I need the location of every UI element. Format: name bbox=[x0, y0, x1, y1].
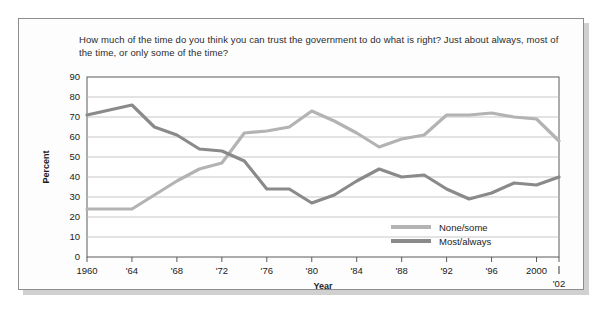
x-tick-label: '80 bbox=[306, 265, 318, 276]
y-tick-label: 80 bbox=[69, 91, 80, 102]
x-tick-label: '88 bbox=[395, 265, 407, 276]
x-tick-label: '84 bbox=[351, 265, 363, 276]
plot-frame bbox=[87, 77, 559, 257]
x-tick-label: '64 bbox=[126, 265, 138, 276]
x-tick-label: '96 bbox=[485, 265, 497, 276]
x-tick-label: 2000 bbox=[526, 265, 547, 276]
y-tick-label: 40 bbox=[69, 171, 80, 182]
legend-label: Most/always bbox=[439, 236, 492, 247]
figure-container: How much of the time do you think you ca… bbox=[0, 0, 611, 322]
x-tick-label-end: '02 bbox=[553, 278, 565, 289]
y-axis-title: Percent bbox=[41, 150, 51, 183]
y-tick-label: 10 bbox=[69, 231, 80, 242]
y-axis-ticks: 0102030405060708090 bbox=[69, 71, 80, 262]
y-tick-label: 30 bbox=[69, 191, 80, 202]
x-tick-label: '76 bbox=[261, 265, 273, 276]
x-tick-label: '68 bbox=[171, 265, 183, 276]
legend-label: None/some bbox=[439, 222, 488, 233]
chart-card: How much of the time do you think you ca… bbox=[18, 18, 584, 290]
y-tick-label: 20 bbox=[69, 211, 80, 222]
y-tick-label: 50 bbox=[69, 151, 80, 162]
y-tick-label: 90 bbox=[69, 71, 80, 82]
x-tick-label: '92 bbox=[440, 265, 452, 276]
x-axis-title: Year bbox=[313, 281, 333, 291]
y-tick-label: 60 bbox=[69, 131, 80, 142]
y-tick-label: 0 bbox=[75, 251, 80, 262]
x-tick-label: '72 bbox=[216, 265, 228, 276]
x-tick-label: 1960 bbox=[76, 265, 97, 276]
trust-in-government-line-chart: 0102030405060708090 1960'64'68'72'76'80'… bbox=[19, 19, 585, 291]
y-tick-label: 70 bbox=[69, 111, 80, 122]
